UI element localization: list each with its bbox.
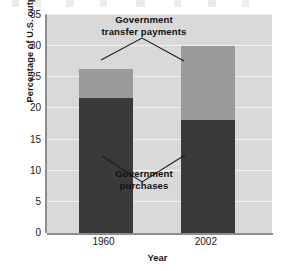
bar-segment — [79, 69, 133, 98]
bar-1960 — [79, 69, 133, 233]
x-axis-title: Year — [45, 252, 270, 263]
annotation-government-purchases: Government purchases — [74, 168, 214, 191]
x-tick-label-2002: 2002 — [195, 236, 217, 247]
y-tick-label: 20 — [0, 102, 41, 113]
y-tick-label: 30 — [0, 40, 41, 51]
annotation-transfers-line2: transfer payments — [74, 26, 214, 38]
annotation-transfers-line1: Government — [74, 14, 214, 26]
gridline — [47, 45, 272, 46]
bar-segment — [181, 46, 235, 120]
y-tick-label: 15 — [0, 133, 41, 144]
y-tick-label: 5 — [0, 195, 41, 206]
bar-2002 — [181, 46, 235, 233]
chart-figure: Percentage of U.S. output 05101520253035… — [0, 0, 284, 271]
x-tick-label-1960: 1960 — [92, 236, 114, 247]
bar-segment — [79, 98, 133, 233]
annotation-purchases-line1: Government — [74, 168, 214, 180]
page-bleed-artifact — [8, 0, 258, 7]
y-tick-label: 0 — [0, 227, 41, 238]
plot-area — [45, 14, 272, 233]
annotation-transfer-payments: Government transfer payments — [74, 14, 214, 37]
y-tick-label: 35 — [0, 9, 41, 20]
y-tick-label: 10 — [0, 164, 41, 175]
annotation-purchases-line2: purchases — [74, 180, 214, 192]
x-axis-tick-labels: 19602002 — [45, 236, 270, 252]
y-tick-label: 25 — [0, 71, 41, 82]
y-axis-tick-labels: 05101520253035 — [0, 14, 41, 232]
